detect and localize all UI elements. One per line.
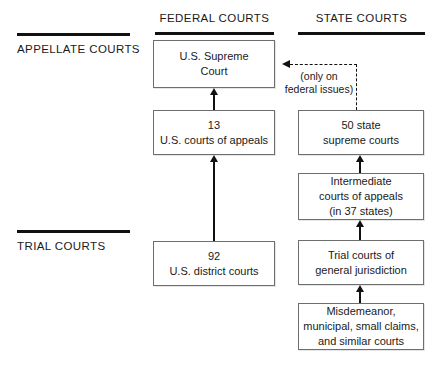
box-label: Intermediate courts of appeals (in 37 st… [319, 174, 403, 219]
arrow-intermediate-to-state-supreme-head [356, 155, 364, 162]
arrow-appeals-to-supreme-line [213, 95, 215, 110]
box-label: Misdemeanor, municipal, small claims, an… [303, 304, 419, 349]
box-label: 92 U.S. district courts [169, 249, 258, 279]
dashed-connector-horizontal [290, 64, 357, 65]
arrow-appeals-to-supreme-head [210, 88, 218, 95]
arrow-district-to-appeals-line [213, 162, 215, 241]
box-intermediate-courts-of-appeals[interactable]: Intermediate courts of appeals (in 37 st… [298, 173, 424, 220]
box-label: 50 state supreme courts [323, 118, 399, 148]
box-us-supreme-court[interactable]: U.S. Supreme Court [153, 40, 275, 88]
column-header-state: STATE COURTS [298, 12, 425, 24]
box-state-supreme-courts[interactable]: 50 state supreme courts [298, 110, 424, 155]
arrow-intermediate-to-state-supreme-line [359, 162, 361, 173]
tier-rule-appellate [17, 33, 130, 36]
box-label: U.S. Supreme Court [179, 49, 248, 79]
arrow-trial-to-intermediate-line [359, 227, 361, 240]
tier-label-trial: TRIAL COURTS [17, 240, 106, 252]
box-us-courts-of-appeals[interactable]: 13 U.S. courts of appeals [153, 110, 275, 155]
dashed-connector-arrowhead [282, 60, 290, 68]
box-label: 13 U.S. courts of appeals [160, 118, 268, 148]
federal-issues-note: (only on federal issues) [284, 70, 354, 96]
arrow-trial-to-intermediate-head [356, 220, 364, 227]
arrow-misdemeanor-to-trial-head [356, 285, 364, 292]
arrow-district-to-appeals-head [210, 155, 218, 162]
tier-rule-trial [17, 230, 130, 233]
arrow-misdemeanor-to-trial-line [359, 292, 361, 303]
column-header-federal: FEDERAL COURTS [155, 12, 274, 24]
box-trial-courts-general-jurisdiction[interactable]: Trial courts of general jurisdiction [298, 240, 424, 285]
column-rule-federal [155, 32, 274, 35]
tier-label-appellate: APPELLATE COURTS [17, 43, 140, 55]
column-rule-state [298, 32, 425, 35]
box-label: Trial courts of general jurisdiction [315, 248, 407, 278]
box-us-district-courts[interactable]: 92 U.S. district courts [153, 241, 275, 286]
court-system-diagram: FEDERAL COURTS STATE COURTS APPELLATE CO… [0, 0, 436, 367]
dashed-connector-vertical [356, 64, 357, 110]
box-misdemeanor-municipal-courts[interactable]: Misdemeanor, municipal, small claims, an… [298, 303, 424, 350]
